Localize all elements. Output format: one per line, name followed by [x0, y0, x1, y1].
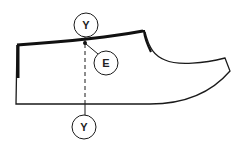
- bottom-y-label: Y: [80, 121, 88, 133]
- pattern-diagram: Y E Y: [0, 0, 243, 144]
- heel-notch-thick: [142, 31, 151, 52]
- top-y-marker: Y: [74, 13, 98, 37]
- point-e-leader: [86, 44, 98, 54]
- e-label: E: [102, 57, 109, 69]
- top-y-label: Y: [82, 19, 90, 31]
- e-marker: E: [94, 51, 118, 75]
- bottom-y-marker: Y: [72, 115, 96, 139]
